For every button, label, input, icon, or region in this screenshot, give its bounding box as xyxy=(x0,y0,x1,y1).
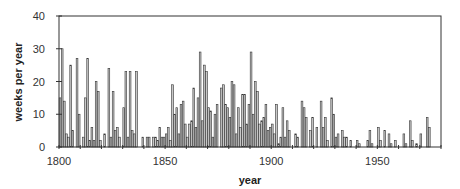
y-axis: 010203040 xyxy=(33,10,62,153)
bar xyxy=(78,114,80,147)
bar xyxy=(131,131,133,147)
bar xyxy=(265,104,267,147)
x-tick-label: 1950 xyxy=(365,155,389,167)
bar xyxy=(170,140,172,147)
bar xyxy=(91,127,93,147)
bar xyxy=(189,124,191,147)
bar xyxy=(409,121,411,147)
bar xyxy=(252,114,254,147)
bar xyxy=(180,104,182,147)
bar xyxy=(125,72,127,147)
bar xyxy=(250,52,252,147)
bar xyxy=(89,140,91,147)
bar xyxy=(242,95,244,147)
bar xyxy=(240,127,242,147)
bar xyxy=(280,137,282,147)
bar xyxy=(331,98,333,147)
bar xyxy=(87,59,89,147)
bar xyxy=(320,101,322,147)
bar xyxy=(172,85,174,147)
bar xyxy=(133,134,135,147)
bar xyxy=(220,88,222,147)
bar xyxy=(282,108,284,147)
bar xyxy=(123,108,125,147)
bar xyxy=(112,91,114,147)
bar xyxy=(204,65,206,147)
bar xyxy=(117,127,119,147)
y-axis-title: weeks per year xyxy=(12,42,24,123)
bar xyxy=(63,101,65,147)
bar xyxy=(197,98,199,147)
y-tick-label: 20 xyxy=(33,76,45,88)
bar xyxy=(93,140,95,147)
bar xyxy=(303,108,305,147)
bar xyxy=(276,104,278,147)
bar xyxy=(327,140,329,147)
x-tick-label: 1800 xyxy=(47,155,71,167)
bar xyxy=(261,121,263,147)
bar xyxy=(411,140,413,147)
bar xyxy=(388,134,390,147)
x-tick-label: 1900 xyxy=(259,155,283,167)
bar xyxy=(237,108,239,147)
bar xyxy=(284,137,286,147)
bar xyxy=(176,108,178,147)
bar xyxy=(72,131,74,147)
bar xyxy=(85,98,87,147)
bar-chart: 010203040 1800185019001950 year weeks pe… xyxy=(0,0,460,189)
bar xyxy=(426,118,428,147)
bar xyxy=(191,121,193,147)
y-tick-label: 30 xyxy=(33,43,45,55)
bar xyxy=(324,118,326,147)
bar xyxy=(227,108,229,147)
bar xyxy=(235,134,237,147)
bar xyxy=(68,137,70,147)
bar xyxy=(350,140,352,147)
bar xyxy=(119,137,121,147)
bar xyxy=(76,59,78,147)
bar xyxy=(333,114,335,147)
bar xyxy=(146,137,148,147)
y-tick-label: 0 xyxy=(39,141,45,153)
bar xyxy=(316,127,318,147)
bar xyxy=(114,131,116,147)
bar xyxy=(310,131,312,147)
bar xyxy=(301,101,303,147)
bar xyxy=(341,131,343,147)
bar xyxy=(201,121,203,147)
bar xyxy=(346,137,348,147)
bar xyxy=(70,65,72,147)
x-axis-title: year xyxy=(239,174,262,186)
bar xyxy=(337,134,339,147)
bar xyxy=(225,104,227,147)
bar xyxy=(182,101,184,147)
x-axis: 1800185019001950 xyxy=(47,145,441,167)
bar xyxy=(178,134,180,147)
bar xyxy=(229,118,231,147)
bar xyxy=(263,118,265,147)
bar xyxy=(161,137,163,147)
bar xyxy=(254,82,256,148)
bar xyxy=(288,131,290,147)
bar xyxy=(297,137,299,147)
bar xyxy=(104,134,106,147)
bar xyxy=(312,118,314,147)
bar xyxy=(295,134,297,147)
bar xyxy=(267,131,269,147)
bar xyxy=(223,85,225,147)
bar xyxy=(378,127,380,147)
bar xyxy=(244,95,246,147)
bar xyxy=(274,134,276,147)
bar xyxy=(380,140,382,147)
bar xyxy=(193,88,195,147)
bar xyxy=(212,137,214,147)
bar xyxy=(127,137,129,147)
bar xyxy=(136,72,138,147)
bar xyxy=(153,137,155,147)
bar xyxy=(233,85,235,147)
bar xyxy=(428,127,430,147)
x-tick-label: 1850 xyxy=(153,155,177,167)
bar xyxy=(167,127,169,147)
y-tick-label: 40 xyxy=(33,10,45,22)
bar xyxy=(206,72,208,147)
